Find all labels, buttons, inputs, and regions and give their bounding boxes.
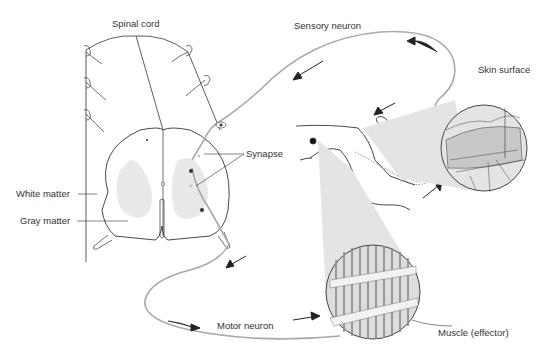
- skin-inset: [441, 105, 527, 192]
- arrow-leg-up: [423, 186, 438, 198]
- label-spinal-cord: Spinal cord: [112, 18, 160, 29]
- label-white-matter: White matter: [16, 188, 70, 199]
- label-motor-neuron: Motor neuron: [217, 320, 274, 331]
- nerve-roots: [84, 46, 210, 133]
- label-muscle-effector: Muscle (effector): [438, 327, 509, 338]
- label-sensory-neuron: Sensory neuron: [294, 20, 361, 31]
- label-gray-matter: Gray matter: [20, 215, 70, 226]
- reflex-arc-diagram: Spinal cord Sensory neuron Skin surface …: [0, 0, 546, 352]
- label-synapse: Synapse: [246, 148, 283, 159]
- muscle-inset: [326, 245, 452, 339]
- label-skin-surface: Skin surface: [478, 64, 530, 75]
- diagram-canvas: [0, 0, 546, 352]
- spinal-cord-cross-section: [93, 128, 230, 249]
